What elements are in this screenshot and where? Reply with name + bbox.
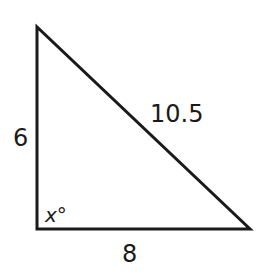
triangle-diagram: 6 8 10.5 x° xyxy=(0,0,262,280)
right-triangle xyxy=(37,27,250,229)
angle-label: x° xyxy=(44,203,67,227)
hypotenuse-label: 10.5 xyxy=(150,100,203,128)
left-side-label: 6 xyxy=(13,124,28,152)
bottom-side-label: 8 xyxy=(122,240,137,268)
